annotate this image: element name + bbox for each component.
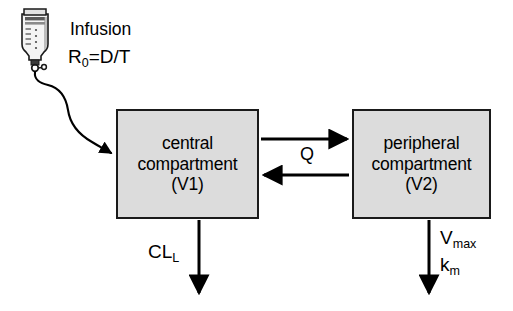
vmax-subscript: max — [453, 237, 477, 251]
central-compartment-box[interactable]: central compartment (V1) — [116, 109, 259, 219]
central-compartment-volume: (V1) — [171, 174, 203, 195]
clearance-symbol: CL — [148, 241, 172, 262]
peripheral-compartment-line1: peripheral — [384, 133, 460, 154]
central-compartment-line1: central — [162, 133, 213, 154]
infusion-label: Infusion — [70, 20, 131, 39]
peripheral-compartment-volume: (V2) — [405, 174, 437, 195]
peripheral-compartment-line2: compartment — [372, 154, 472, 175]
vmax-label: Vmax — [440, 228, 476, 249]
central-compartment-line2: compartment — [138, 154, 238, 175]
km-symbol: k — [440, 254, 450, 275]
clearance-subscript: L — [172, 251, 179, 265]
km-label: km — [440, 255, 460, 276]
vmax-symbol: V — [440, 227, 453, 248]
infusion-rate-subscript: 0 — [82, 56, 89, 70]
infusion-tubing-arrow — [35, 72, 111, 153]
infusion-rate-symbol: R — [68, 46, 82, 67]
infusion-rate-label: R0=D/T — [68, 47, 130, 68]
hepatic-clearance-label: CLL — [148, 242, 179, 263]
infusion-rate-expression: =D/T — [89, 46, 131, 67]
iv-bottle-icon — [22, 9, 48, 71]
diagram-canvas: Infusion R0=D/T central compartment (V1)… — [0, 0, 513, 311]
intercompartmental-flow-label: Q — [300, 145, 314, 165]
peripheral-compartment-box[interactable]: peripheral compartment (V2) — [352, 109, 491, 219]
km-subscript: m — [450, 264, 460, 278]
